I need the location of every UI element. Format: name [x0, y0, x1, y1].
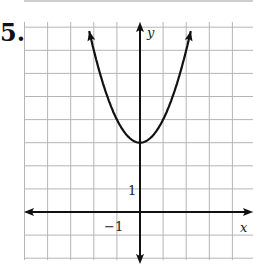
x-axis-label: x: [240, 220, 248, 235]
graph: y x −1 1: [0, 0, 253, 270]
y-tick-label: 1: [128, 183, 136, 198]
y-axis-label: y: [146, 25, 155, 40]
x-tick-label: −1: [104, 219, 123, 234]
grid: [24, 22, 253, 260]
